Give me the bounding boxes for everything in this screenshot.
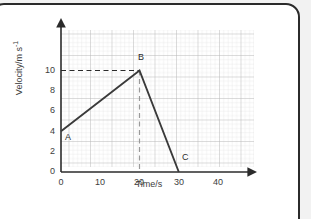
- screenshot-root: Velocity/m s-1 Time/s: [0, 0, 311, 219]
- y-tick-6: 6: [37, 105, 55, 115]
- x-tick-20: 20: [129, 177, 149, 187]
- x-tick-40: 40: [208, 177, 228, 187]
- point-label-b: B: [138, 52, 144, 62]
- y-tick-8: 8: [37, 85, 55, 95]
- velocity-time-chart: Velocity/m s-1 Time/s: [4, 12, 292, 202]
- y-tick-4: 4: [37, 126, 55, 136]
- y-tick-10: 10: [37, 65, 55, 75]
- y-axis-title-text: Velocity/m s: [14, 47, 24, 95]
- x-tick-0: 0: [51, 177, 71, 187]
- y-tick-0: 0: [37, 166, 55, 176]
- point-label-a: A: [65, 132, 71, 142]
- point-label-c: C: [182, 152, 189, 162]
- y-axis-title-exponent: -1: [12, 41, 19, 47]
- grid-area: [61, 30, 254, 167]
- x-tick-30: 30: [169, 177, 189, 187]
- y-axis-title: Velocity/m s-1: [12, 8, 24, 128]
- y-tick-2: 2: [37, 146, 55, 156]
- figure-card: Velocity/m s-1 Time/s: [4, 12, 292, 202]
- x-tick-10: 10: [90, 177, 110, 187]
